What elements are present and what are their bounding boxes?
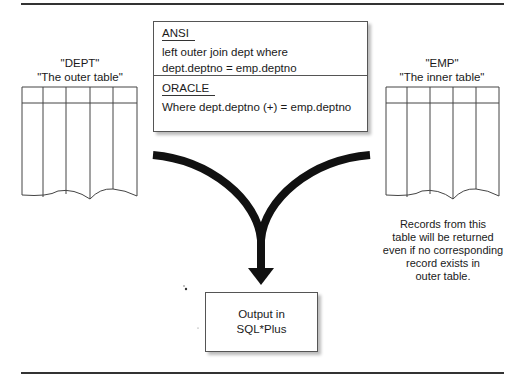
output-line-1: Output in: [237, 307, 287, 322]
oracle-heading: ORACLE: [162, 81, 215, 96]
inner-table-note: Records from this table will be returned…: [378, 218, 508, 283]
arrowhead-icon: [248, 268, 274, 285]
speck: [183, 285, 184, 286]
speck: [185, 288, 187, 290]
note-line: Records from this: [378, 218, 508, 231]
note-line: even if no corresponding: [378, 244, 508, 257]
sql-syntax-box: ANSI left outer join dept where dept.dep…: [153, 21, 368, 132]
ansi-line-2: dept.deptno = emp.deptno: [162, 60, 367, 76]
speck: [197, 327, 198, 328]
note-line: outer table.: [378, 270, 508, 283]
note-line: table will be returned: [378, 231, 508, 244]
ansi-section: ANSI left outer join dept where dept.dep…: [154, 25, 367, 76]
ansi-heading: ANSI: [162, 26, 195, 41]
sql-divider: [154, 75, 367, 76]
oracle-line-1: Where dept.deptno (+) = emp.deptno: [162, 99, 367, 115]
output-line-2: SQL*Plus: [237, 322, 287, 337]
output-box: Output in SQL*Plus: [205, 292, 318, 352]
merge-arrow-icon: [153, 155, 370, 270]
dept-table-icon: [22, 87, 137, 199]
note-line: record exists in: [378, 257, 508, 270]
emp-table-icon: [386, 87, 499, 199]
oracle-section: ORACLE Where dept.deptno (+) = emp.deptn…: [154, 80, 367, 115]
ansi-line-1: left outer join dept where: [162, 44, 367, 60]
